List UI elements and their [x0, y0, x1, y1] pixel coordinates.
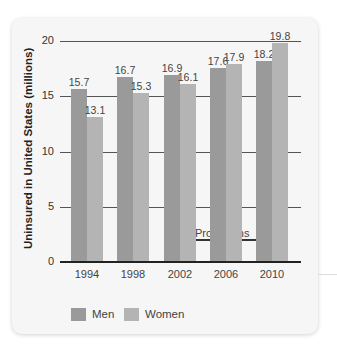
legend-label-women: Women [145, 308, 184, 320]
x-tick-label: 2006 [206, 268, 246, 280]
y-axis-title: Uninsured in United States (millions) [22, 49, 34, 249]
legend-label-men: Men [92, 308, 114, 320]
x-tick-label: 2010 [252, 268, 292, 280]
bar-men-2002 [164, 75, 180, 262]
data-label: 13.1 [80, 104, 110, 116]
bar-women-2006 [226, 64, 242, 262]
y-tick-label: 5 [34, 200, 54, 212]
y-tick-label: 15 [34, 89, 54, 101]
bar-women-1998 [133, 93, 149, 262]
y-tick-label: 10 [34, 145, 54, 157]
x-tick-label: 1998 [113, 268, 153, 280]
data-label: 17.9 [219, 51, 249, 63]
background-rule [318, 274, 337, 275]
x-axis-line [60, 261, 301, 263]
bar-women-1994 [87, 117, 103, 262]
bar-men-2010 [256, 61, 272, 262]
bar-women-2002 [180, 84, 196, 262]
legend-swatch-women [124, 308, 139, 321]
data-label: 16.7 [110, 64, 140, 76]
bar-men-1998 [117, 77, 133, 262]
y-tick-label: 20 [34, 34, 54, 46]
x-tick-label: 1994 [67, 268, 107, 280]
bar-men-2006 [210, 68, 226, 262]
data-label: 19.8 [265, 30, 295, 42]
data-label: 16.1 [173, 71, 203, 83]
y-tick-label: 0 [34, 255, 54, 267]
bar-women-2010 [272, 43, 288, 262]
legend-swatch-men [71, 308, 86, 321]
data-label: 15.3 [126, 80, 156, 92]
data-label: 15.7 [64, 76, 94, 88]
x-tick-label: 2002 [160, 268, 200, 280]
